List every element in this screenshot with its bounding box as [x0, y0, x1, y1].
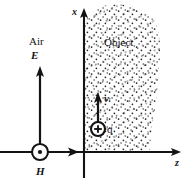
z-axis-label: z: [175, 158, 179, 168]
diagram-canvas: [0, 0, 191, 188]
electric-field-vector: [36, 66, 44, 150]
velocity-label: v: [104, 93, 109, 104]
magnetic-field-marker: [32, 144, 48, 160]
object-region-label: Object: [104, 37, 133, 48]
electric-field-label: E: [31, 50, 38, 61]
x-axis-label: x: [72, 7, 77, 17]
charge-label: q: [107, 124, 113, 135]
circle-dot-out-of-page-icon: [38, 150, 42, 154]
air-region-label: Air: [29, 36, 44, 47]
charge-marker: [91, 122, 105, 136]
magnetic-field-label: H: [36, 166, 45, 177]
physics-diagram: Air E H x z Object v q: [0, 0, 191, 188]
